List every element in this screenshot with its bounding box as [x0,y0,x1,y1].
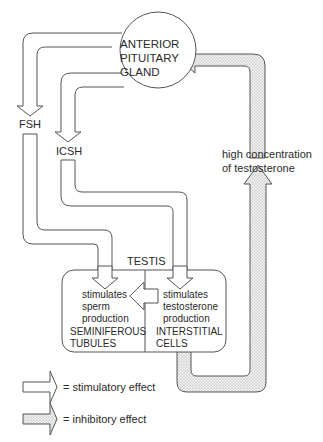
legend-stimulatory-label: = stimulatory effect [63,381,155,393]
stimulatory-arrow-pituitary-to-icsh [55,73,124,142]
interstitial-name-2: CELLS [156,338,188,349]
tubules-effect-1: stimulates [82,289,127,300]
tubules-effect-2: sperm [82,301,110,312]
legend-stimulatory-arrow-icon [23,371,57,403]
fsh-label: FSH [19,118,41,130]
interstitial-name-1: INTERSTITIAL [156,326,223,337]
pituitary-label-3: GLAND [120,66,160,78]
tubules-effect-3: production [82,313,129,324]
testis-hormone-diagram: ANTERIOR PITUITARY GLAND FSH ICSH high c… [0,0,323,442]
tubules-name-2: TUBULES [70,338,116,349]
icsh-label: ICSH [56,145,82,157]
legend-inhibitory-arrow-icon [23,403,57,435]
legend-inhibitory-label: = inhibitory effect [63,413,146,425]
interstitial-effect-2: testosterone [163,301,218,312]
legend: = stimulatory effect = inhibitory effect [23,371,155,435]
testosterone-label-1: high concentration [222,148,312,160]
testosterone-label-2: of testosterone [222,162,295,174]
testis-label: TESTIS [127,255,166,267]
pituitary-label-2: PITUITARY [120,52,179,64]
interstitial-effect-1: stimulates [163,289,208,300]
pituitary-label-1: ANTERIOR [120,38,179,50]
interstitial-effect-3: production [163,313,210,324]
tubules-name-1: SEMINIFEROUS [70,326,146,337]
